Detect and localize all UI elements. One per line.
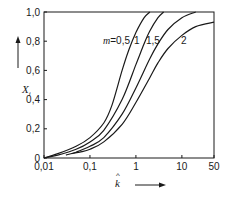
x-tick-label: 1: [133, 161, 139, 172]
y-tick-label: 0,2: [26, 123, 40, 134]
curve-1-5: [66, 12, 196, 155]
series-label-0: m=0,5: [103, 35, 130, 46]
x-tick-label: 50: [208, 161, 220, 172]
x-axis-label-hat: ^: [116, 171, 120, 180]
chart: 00,20,40,60,81,0 0,010,111050 m=0,511,52…: [0, 0, 229, 198]
curves: [44, 12, 214, 158]
x-tick-label: 10: [176, 161, 188, 172]
y-tick-label: 0,6: [26, 65, 40, 76]
y-axis-arrowhead-icon: [16, 36, 21, 43]
plot-frame: [44, 12, 214, 158]
curve-2: [72, 22, 214, 153]
x-tick-label: 0,01: [34, 161, 54, 172]
y-tick-label: 0,8: [26, 36, 40, 47]
x-axis-arrowhead-icon: [159, 183, 166, 188]
series-label-3: 2: [181, 35, 187, 46]
series-label-1: 1: [134, 35, 140, 46]
curve-0-5: [44, 12, 150, 158]
series-label-2: 1,5: [146, 35, 160, 46]
y-tick-label: 1,0: [26, 7, 40, 18]
x-tick-label: 0,1: [83, 161, 97, 172]
